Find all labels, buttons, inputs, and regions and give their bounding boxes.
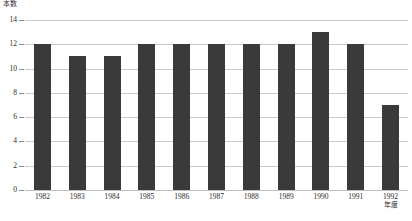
y-axis-tick-label: 2 [1, 162, 17, 170]
y-axis-tick [19, 117, 24, 118]
y-axis-tick [19, 44, 24, 45]
y-axis-tick-label: 8 [1, 89, 17, 97]
plot-area [25, 20, 408, 190]
x-axis-tick-labels: 1982198319841985198619871988198919901991… [25, 192, 408, 220]
bar [69, 56, 86, 190]
x-axis-tick-label: 1992 [371, 192, 411, 201]
bar [208, 44, 225, 190]
bar-chart: 本数 02468101214 1982198319841985198619871… [0, 0, 412, 221]
y-axis-tick [19, 20, 24, 21]
bar-series [25, 20, 408, 190]
y-axis-tick-label: 4 [1, 137, 17, 145]
y-axis-unit-label: 本数 [3, 0, 17, 9]
bar [243, 44, 260, 190]
bar [382, 105, 399, 190]
bar [138, 44, 155, 190]
bar [104, 56, 121, 190]
y-axis-tick [19, 190, 24, 191]
y-axis-tick-label: 0 [1, 186, 17, 194]
bar [173, 44, 190, 190]
y-axis-tick-label: 14 [1, 16, 17, 24]
bar [312, 32, 329, 190]
x-axis-unit-label: 年度 [371, 201, 411, 210]
y-axis-tick [19, 166, 24, 167]
y-axis-tick-labels: 02468101214 [0, 20, 17, 190]
y-axis-tick-label: 12 [1, 40, 17, 48]
y-axis-tick-label: 10 [1, 65, 17, 73]
bar [278, 44, 295, 190]
y-axis-tick [19, 69, 24, 70]
y-axis-tick [19, 93, 24, 94]
bar [34, 44, 51, 190]
y-axis-tick-label: 6 [1, 113, 17, 121]
y-axis-tick [19, 141, 24, 142]
bar [347, 44, 364, 190]
gridline [25, 190, 408, 191]
